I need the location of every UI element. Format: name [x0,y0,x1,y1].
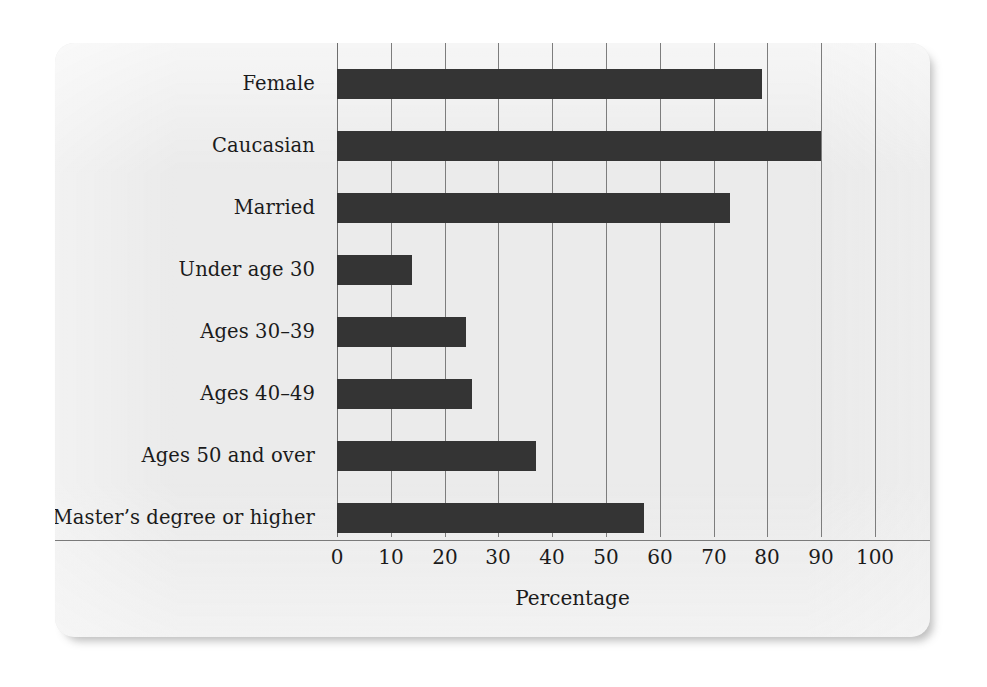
bar-row [337,317,875,347]
x-tick-label: 40 [539,545,564,569]
bar [337,69,762,99]
bar-row [337,503,875,533]
bar [337,131,821,161]
x-axis-title: Percentage [55,586,930,610]
plot-area [337,43,875,537]
x-tick-label: 0 [331,545,344,569]
category-label: Ages 40–49 [200,379,315,409]
x-tick-label: 70 [701,545,726,569]
bar-row [337,441,875,471]
x-tick-label: 20 [432,545,457,569]
bar-row [337,131,875,161]
x-axis-tick-labels: 0102030405060708090100 [337,537,875,583]
x-tick-label: 30 [485,545,510,569]
category-label: Caucasian [212,131,315,161]
category-label: Under age 30 [179,255,315,285]
x-tick-label: 90 [808,545,833,569]
bar [337,379,472,409]
bar [337,441,536,471]
category-label: Married [234,193,315,223]
bar [337,255,412,285]
x-tick-label: 100 [856,545,894,569]
category-label: Ages 30–39 [200,317,315,347]
bar-row [337,379,875,409]
category-label: Female [243,69,316,99]
bar-row [337,255,875,285]
x-axis-title-text: Percentage [515,586,629,610]
x-tick-label: 10 [378,545,403,569]
category-label: Master’s degree or higher [55,503,315,533]
bar [337,317,466,347]
bar-row [337,193,875,223]
gridline-100 [875,43,876,537]
category-axis-labels: Female Caucasian Married Under age 30 Ag… [55,43,327,537]
category-label: Ages 50 and over [142,441,315,471]
chart-card: Female Caucasian Married Under age 30 Ag… [55,43,930,637]
x-tick-label: 80 [754,545,779,569]
bar [337,193,730,223]
bar-row [337,69,875,99]
bar [337,503,644,533]
x-tick-label: 60 [647,545,672,569]
x-tick-label: 50 [593,545,618,569]
